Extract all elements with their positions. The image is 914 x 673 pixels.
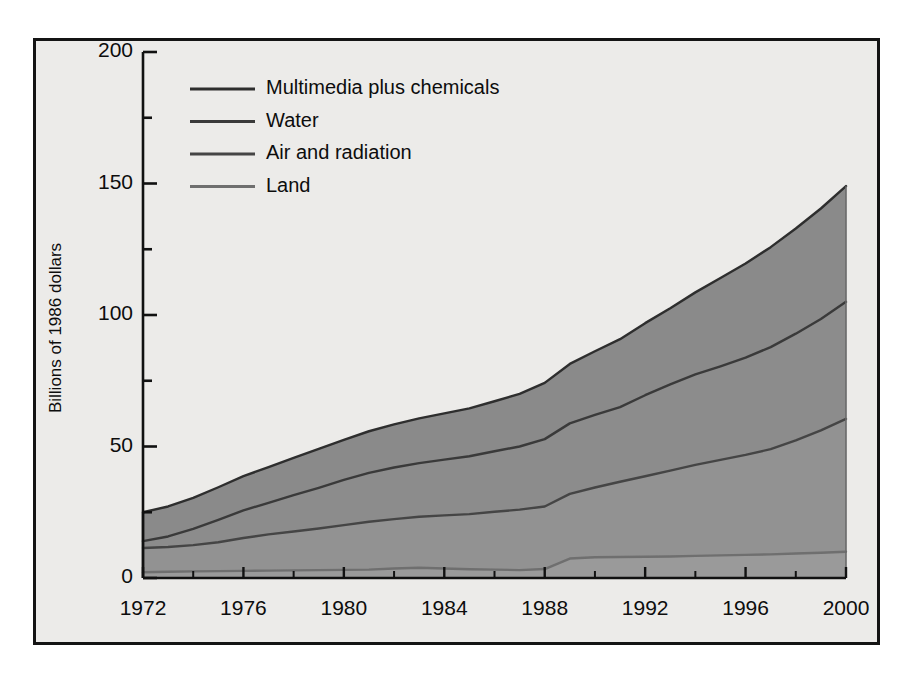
legend-swatch-lines-group — [190, 89, 255, 187]
figure-container: Billions of 1986 dollars 050100150200 19… — [0, 0, 914, 673]
stacked-areas-group — [143, 186, 846, 578]
plot-area — [0, 0, 914, 673]
